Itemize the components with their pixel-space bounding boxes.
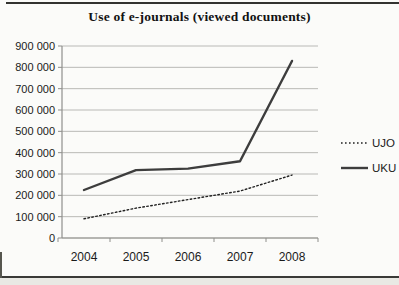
y-tick-label: 100 000 [15, 211, 55, 223]
y-tick-label: 600 000 [15, 104, 55, 116]
chart-title: Use of e-journals (viewed documents) [0, 9, 399, 25]
legend-label-UJO: UJO [372, 137, 395, 149]
page-top-rule [6, 2, 399, 4]
series-line-UKU [84, 61, 292, 190]
y-tick-label: 700 000 [15, 83, 55, 95]
page-edge-strip [0, 278, 399, 285]
y-tick-label: 500 000 [15, 125, 55, 137]
x-tick-label: 2004 [71, 250, 98, 264]
x-tick-label: 2006 [175, 250, 202, 264]
x-tick-label: 2008 [279, 250, 306, 264]
series-line-UJO [84, 175, 292, 219]
legend-label-UKU: UKU [372, 162, 396, 174]
y-tick-label: 800 000 [15, 61, 55, 73]
y-tick-label: 200 000 [15, 189, 55, 201]
page-left-edge [0, 252, 2, 278]
y-tick-label: 300 000 [15, 168, 55, 180]
scanned-chart-page: Use of e-journals (viewed documents) 010… [0, 0, 399, 285]
line-chart-plot: 0100 000200 000300 000400 000500 000600 … [0, 30, 399, 270]
y-tick-label: 400 000 [15, 147, 55, 159]
x-tick-label: 2007 [227, 250, 254, 264]
y-tick-label: 900 000 [15, 40, 55, 52]
y-tick-label: 0 [49, 232, 55, 244]
x-tick-label: 2005 [123, 250, 150, 264]
